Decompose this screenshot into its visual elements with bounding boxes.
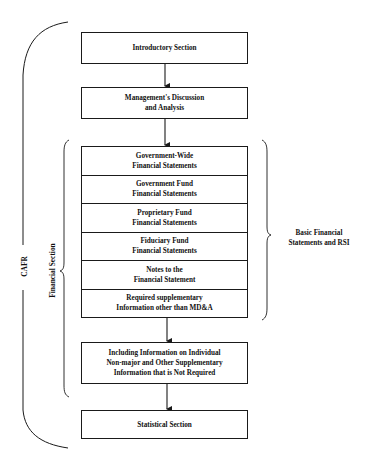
fiduciary-fund-statements-row: Fiduciary Fund Financial Statements [82,232,247,261]
row-label-line1: Government-Wide [132,151,196,161]
basic-rsi-label-line1: Basic Financial [279,228,359,238]
financial-section-brace [60,140,69,397]
mdna-box: Management's Discussion and Analysis [81,87,248,119]
row-label-line1: Government Fund [132,179,196,189]
cafr-label: CAFR [20,255,29,279]
mdna-label-line2: and Analysis [125,103,204,113]
supplementary-info-box: Including Information on Individual Non-… [81,342,248,384]
statistical-section-box: Statistical Section [81,410,248,439]
statistical-section-label: Statistical Section [137,420,192,430]
supplementary-label-line3: Information that is Not Required [106,368,222,378]
financial-section-label: Financial Section [48,241,57,301]
supplementary-label-line2: Non-major and Other Supplementary [106,358,222,368]
government-wide-statements-row: Government-Wide Financial Statements [82,147,247,175]
row-label-line1: Fiduciary Fund [132,236,196,246]
required-supplementary-info-row: Required supplementary Information other… [82,289,247,318]
row-label-line2: Financial Statements [132,246,196,256]
cafr-bracket [23,22,68,448]
financial-statements-stack: Government-Wide Financial Statements Gov… [81,146,248,318]
row-label-line1: Required supplementary [116,293,212,303]
row-label-line1: Notes to the [134,265,196,275]
introductory-section-box: Introductory Section [81,32,248,64]
row-label-line2: Financial Statements [132,161,196,171]
row-label-line1: Proprietary Fund [132,208,196,218]
notes-to-financial-statement-row: Notes to the Financial Statement [82,260,247,289]
row-label-line2: Information other than MD&A [116,303,212,313]
introductory-section-label: Introductory Section [133,43,197,53]
basic-statements-brace [262,140,271,320]
mdna-label-line1: Management's Discussion [125,93,204,103]
row-label-line2: Financial Statement [134,275,196,285]
government-fund-statements-row: Government Fund Financial Statements [82,175,247,204]
proprietary-fund-statements-row: Proprietary Fund Financial Statements [82,203,247,232]
basic-statements-rsi-label: Basic Financial Statements and RSI [279,228,359,248]
row-label-line2: Financial Statements [132,189,196,199]
basic-rsi-label-line2: Statements and RSI [279,238,359,248]
row-label-line2: Financial Statements [132,218,196,228]
supplementary-label-line1: Including Information on Individual [106,348,222,358]
